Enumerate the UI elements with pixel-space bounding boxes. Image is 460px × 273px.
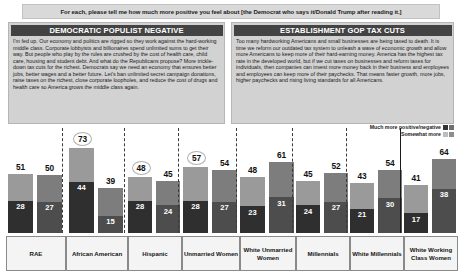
category-label-box: White Unmarried Women xyxy=(240,236,296,271)
bar-group: 57285427 xyxy=(182,128,238,233)
category-label-box: Unmarried Women xyxy=(182,236,240,271)
category-label-text: RAE xyxy=(30,250,43,257)
bar-segment-much-more: 24 xyxy=(296,205,320,233)
bar-democratic: 4524 xyxy=(296,128,320,233)
chart-slide: For each, please tell me how much more p… xyxy=(0,0,460,273)
bar-gop: 6438 xyxy=(432,128,456,233)
bar-segment-somewhat-more xyxy=(378,170,402,198)
bar-segment-value: 27 xyxy=(220,202,228,213)
group-divider xyxy=(400,128,401,233)
group-divider xyxy=(62,128,63,233)
bar-segment-value: 28 xyxy=(136,201,144,212)
bar-democratic: 4321 xyxy=(350,128,374,233)
bar-segment-somewhat-more xyxy=(240,177,265,206)
category-label-box: White Working Class Women xyxy=(404,236,458,271)
bar-total-label: 41 xyxy=(404,173,428,183)
bar-segment-value: 27 xyxy=(45,202,53,213)
bar-segment-value: 24 xyxy=(164,205,172,216)
bar-segment-somewhat-more xyxy=(296,181,320,205)
bar-total-label: 61 xyxy=(269,150,294,160)
panel-body-right: Too many hardworking Americans and small… xyxy=(232,36,453,86)
legend-swatch-somewhat-more xyxy=(443,132,454,137)
group-divider xyxy=(178,128,179,233)
question-text: For each, please tell me how much more p… xyxy=(60,9,401,15)
bar-democratic: 7344 xyxy=(69,128,94,233)
panel-democratic-populist-negative: DEMOCRATIC POPULIST NEGATIVE I'm fed up.… xyxy=(8,22,225,124)
bar-segment-value: 38 xyxy=(440,189,448,200)
legend-item-much-more: Much more positive/negative xyxy=(370,124,454,130)
bar-segment-somewhat-more xyxy=(269,162,294,197)
group-divider xyxy=(292,128,293,233)
bar-group: 48236131 xyxy=(240,128,294,233)
bar-segment-somewhat-more xyxy=(432,159,456,189)
group-divider xyxy=(346,128,347,233)
bar-total-label: 73 xyxy=(73,132,92,146)
category-label-text: Unmarried Women xyxy=(184,250,238,257)
bar-segment-somewhat-more xyxy=(212,170,237,201)
bar-democratic: 5128 xyxy=(8,128,33,233)
bar-democratic: 4117 xyxy=(404,128,428,233)
legend-label-somewhat-more: Somewhat more xyxy=(401,131,441,137)
panel-establishment-gop-tax-cuts: ESTABLISHMENT GOP TAX CUTS Too many hard… xyxy=(231,22,454,124)
legend-label-much-more: Much more positive/negative xyxy=(370,124,441,130)
bar-segment-value: 44 xyxy=(77,182,85,193)
bar-gop: 5027 xyxy=(37,128,62,233)
bar-segment-somewhat-more xyxy=(183,167,208,201)
category-axis: RAEAfrican AmericanHispanicUnmarried Wom… xyxy=(0,236,460,272)
bar-segment-value: 17 xyxy=(412,213,420,224)
bar-group: 43215430 xyxy=(350,128,402,233)
bar-democratic: 4828 xyxy=(128,128,152,233)
bar-democratic: 5728 xyxy=(183,128,208,233)
bar-gop: 5227 xyxy=(324,128,348,233)
bar-segment-much-more: 21 xyxy=(350,209,374,233)
bar-segment-much-more: 44 xyxy=(69,182,94,233)
bar-segment-much-more: 24 xyxy=(156,205,180,233)
legend-swatch-light-a xyxy=(443,132,448,137)
bar-total-label: 52 xyxy=(324,161,348,171)
bar-total-label: 57 xyxy=(187,151,206,165)
bar-segment-somewhat-more xyxy=(324,173,348,202)
bar-group: 45245227 xyxy=(296,128,348,233)
bar-total-label: 45 xyxy=(296,169,320,179)
category-label-text: African American xyxy=(72,250,122,257)
bar-total-label: 64 xyxy=(432,147,456,157)
bar-segment-somewhat-more xyxy=(156,181,180,205)
bar-segment-value: 27 xyxy=(332,202,340,213)
category-label-box: White Millennials xyxy=(350,236,404,271)
bar-total-label: 48 xyxy=(240,165,265,175)
bar-segment-value: 31 xyxy=(277,197,285,208)
panel-header-right: ESTABLISHMENT GOP TAX CUTS xyxy=(234,25,452,36)
bar-segment-value: 30 xyxy=(386,198,394,209)
bar-segment-value: 24 xyxy=(304,205,312,216)
category-label-box: Hispanic xyxy=(128,236,182,271)
bar-total-label: 51 xyxy=(8,162,33,172)
legend-swatch-dark-b xyxy=(449,125,454,130)
panel-body-left: I'm fed up. Our economy and politics are… xyxy=(9,36,224,93)
bar-segment-much-more: 28 xyxy=(128,201,152,233)
legend-swatch-dark-a xyxy=(443,125,448,130)
bar-segment-value: 28 xyxy=(16,201,24,212)
legend-item-somewhat-more: Somewhat more xyxy=(401,131,454,137)
bar-segment-value: 28 xyxy=(191,201,199,212)
legend-swatch-light-b xyxy=(449,132,454,137)
bar-group: 51285027 xyxy=(6,128,64,233)
category-label-text: White Working Class Women xyxy=(405,246,457,260)
bar-chart-plot: 5128502773443915482845245728542748236131… xyxy=(0,128,460,233)
bar-segment-much-more: 38 xyxy=(432,189,456,233)
bar-gop: 5427 xyxy=(212,128,237,233)
category-label-box: African American xyxy=(66,236,128,271)
bar-segment-much-more: 27 xyxy=(37,202,62,233)
question-bar: For each, please tell me how much more p… xyxy=(22,4,440,19)
bar-segment-value: 21 xyxy=(358,209,366,220)
bar-gop: 4524 xyxy=(156,128,180,233)
chart-legend: Much more positive/negative Somewhat mor… xyxy=(314,124,454,137)
bar-segment-much-more: 17 xyxy=(404,213,428,233)
bar-segment-much-more: 28 xyxy=(183,201,208,233)
bar-segment-somewhat-more xyxy=(37,175,62,202)
group-divider xyxy=(236,128,237,233)
bar-segment-much-more: 23 xyxy=(240,206,265,233)
bar-segment-somewhat-more xyxy=(98,188,123,216)
category-label-box: RAE xyxy=(6,236,66,271)
bar-segment-much-more: 30 xyxy=(378,198,402,233)
bar-segment-somewhat-more xyxy=(128,177,152,200)
